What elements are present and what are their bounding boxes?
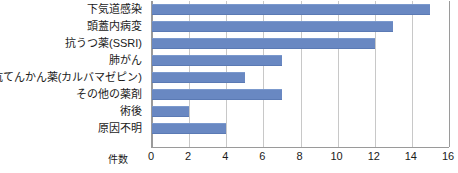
bar [152, 55, 282, 66]
bar-row [152, 1, 449, 18]
bar-row [152, 103, 449, 120]
plot-area [151, 1, 449, 148]
bar-row [152, 52, 449, 69]
bar [152, 106, 189, 117]
x-tick-label: 16 [442, 149, 454, 163]
bar [152, 38, 375, 49]
category-label: 下気道感染 [87, 1, 142, 18]
x-tick-label: 8 [296, 149, 302, 163]
bar-row [152, 35, 449, 52]
x-axis-title: 件数 [108, 151, 128, 166]
bar [152, 89, 282, 100]
bar [152, 123, 226, 134]
category-label: 頭蓋内病変 [87, 18, 142, 35]
bar-row [152, 69, 449, 86]
bar-row [152, 120, 449, 137]
bar-row [152, 86, 449, 103]
horizontal-bar-chart: 下気道感染頭蓋内病変抗うつ薬(SSRI)肺がん抗てんかん薬(カルバマゼピン)その… [0, 0, 458, 173]
x-tick-label: 6 [259, 149, 265, 163]
bar [152, 21, 393, 32]
category-label: 原因不明 [98, 120, 142, 137]
bar-row [152, 18, 449, 35]
gridline [449, 1, 450, 147]
category-label: その他の薬剤 [76, 86, 142, 103]
x-tick-label: 2 [185, 149, 191, 163]
bar [152, 4, 430, 15]
x-tick-label: 0 [148, 149, 154, 163]
x-tick-label: 10 [331, 149, 343, 163]
category-axis-labels: 下気道感染頭蓋内病変抗うつ薬(SSRI)肺がん抗てんかん薬(カルバマゼピン)その… [0, 1, 146, 147]
category-label: 抗うつ薬(SSRI) [65, 35, 142, 52]
x-tick-label: 14 [405, 149, 417, 163]
x-tick-label: 4 [222, 149, 228, 163]
x-axis-tick-labels: 0246810121416 [151, 149, 448, 165]
category-label: 肺がん [109, 52, 142, 69]
bar [152, 72, 245, 83]
category-label: 術後 [120, 103, 142, 120]
category-label: 抗てんかん薬(カルバマゼピン) [0, 69, 142, 86]
x-tick-label: 12 [368, 149, 380, 163]
